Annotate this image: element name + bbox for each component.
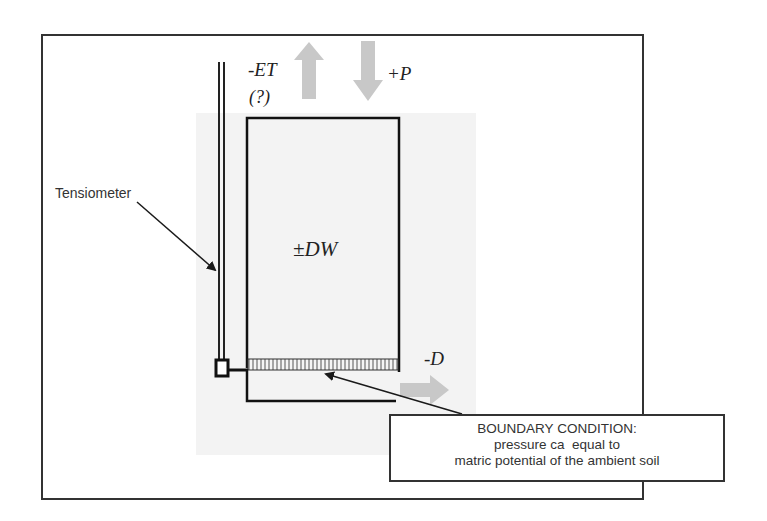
boundary-condition-line1: pressure ca equal to — [391, 437, 723, 453]
porous-plate — [248, 359, 398, 370]
drainage-label: -D — [424, 349, 444, 368]
boundary-condition-line2: matric potential of the ambient soil — [391, 453, 723, 469]
precipitation-label: +P — [387, 64, 411, 83]
tensiometer-label: Tensiometer — [55, 186, 131, 200]
boundary-condition-box: BOUNDARY CONDITION: pressure ca equal to… — [389, 414, 725, 482]
et-label: -ET — [248, 60, 277, 79]
et-uncertain-label: (?) — [249, 88, 270, 106]
evapotranspiration-arrow-icon — [294, 42, 324, 99]
tensiometer-cup — [216, 360, 228, 376]
lysimeter-diagram: -ET (?) +P ±DW -D Tensiometer BOUNDARY C… — [0, 0, 767, 521]
soil-background — [196, 113, 476, 455]
precipitation-arrow-icon — [353, 41, 383, 101]
storage-change-label: ±DW — [293, 239, 337, 260]
boundary-condition-title: BOUNDARY CONDITION: — [391, 421, 723, 437]
